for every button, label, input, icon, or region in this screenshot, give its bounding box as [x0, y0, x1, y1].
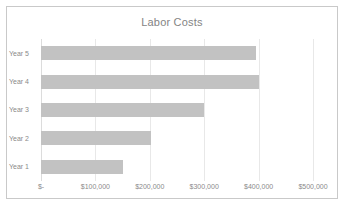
value-tick-label: $500,000 — [298, 183, 327, 190]
category-axis: Year 5Year 4Year 3Year 2Year 1 — [7, 39, 41, 181]
chart-title: Labor Costs — [7, 16, 337, 28]
category-label-year-3: Year 3 — [7, 96, 37, 124]
category-label-year-2: Year 2 — [7, 124, 37, 152]
bar-year-5[interactable] — [41, 46, 256, 60]
chart-frame: Labor Costs Year 5Year 4Year 3Year 2Year… — [6, 6, 338, 199]
bar-year-1[interactable] — [41, 160, 123, 174]
value-axis: $-$100,000$200,000$300,000$400,000$500,0… — [41, 183, 313, 197]
bar-row[interactable] — [41, 96, 313, 124]
value-tick-label: $300,000 — [190, 183, 219, 190]
bar-year-3[interactable] — [41, 103, 204, 117]
bar-row[interactable] — [41, 124, 313, 152]
gridline — [313, 39, 314, 181]
category-label-year-1: Year 1 — [7, 153, 37, 181]
bar-row[interactable] — [41, 39, 313, 67]
value-tick-label: $200,000 — [135, 183, 164, 190]
category-label-year-5: Year 5 — [7, 39, 37, 67]
plot-area — [41, 39, 313, 181]
value-tick-label: $100,000 — [81, 183, 110, 190]
category-label-year-4: Year 4 — [7, 67, 37, 95]
bar-row[interactable] — [41, 67, 313, 95]
bars-layer — [41, 39, 313, 181]
bar-year-2[interactable] — [41, 131, 151, 145]
value-tick-label: $- — [38, 183, 44, 190]
bar-row[interactable] — [41, 153, 313, 181]
value-tick-label: $400,000 — [244, 183, 273, 190]
bar-year-4[interactable] — [41, 75, 259, 89]
